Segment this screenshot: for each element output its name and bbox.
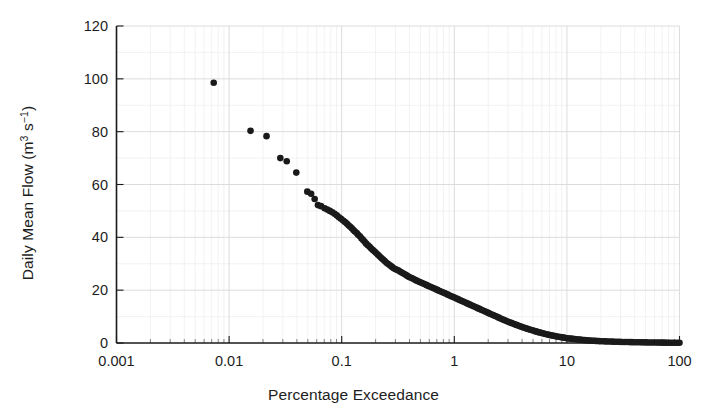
x-axis-title: Percentage Exceedance <box>0 386 707 404</box>
chart-figure: 020406080100120 0.0010.010.1110100 Perce… <box>0 0 707 420</box>
y-tick-label: 40 <box>60 229 108 245</box>
x-tick-label: 1 <box>450 353 458 369</box>
y-axis-title-exponent-neg1: −1 <box>18 111 30 123</box>
x-tick-label: 10 <box>559 353 575 369</box>
x-tick-label: 0.01 <box>215 353 243 369</box>
data-point-series <box>210 80 682 347</box>
y-tick-label: 100 <box>60 71 108 87</box>
y-axis-title: Daily Mean Flow (m3 s−1) <box>14 23 42 363</box>
x-tick-label: 0.001 <box>98 353 134 369</box>
y-axis-title-prefix: Daily Mean Flow (m <box>19 141 36 280</box>
y-tick-label: 20 <box>60 282 108 298</box>
y-axis-title-mid: s <box>19 123 36 135</box>
y-axis-title-exponent-3: 3 <box>18 136 30 142</box>
y-tick-label: 0 <box>60 335 108 351</box>
y-tick-label: 120 <box>60 18 108 34</box>
y-tick-label: 80 <box>60 124 108 140</box>
y-tick-label: 60 <box>60 177 108 193</box>
x-tick-label: 100 <box>667 353 691 369</box>
x-tick-label: 0.1 <box>332 353 352 369</box>
